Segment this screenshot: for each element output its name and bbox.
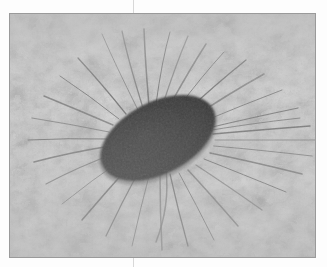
scan-vignette <box>10 14 315 257</box>
page-canvas: Electron micrograph of a rod-shaped bact… <box>0 0 327 267</box>
top-crop-mark <box>133 0 134 13</box>
electron-micrograph-image <box>10 14 315 257</box>
micrograph-frame <box>9 13 316 258</box>
bottom-crop-mark <box>133 258 134 267</box>
